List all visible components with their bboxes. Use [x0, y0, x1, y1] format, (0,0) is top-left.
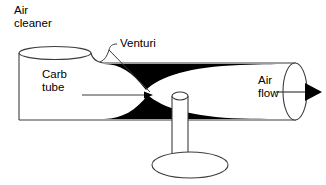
fuel-jet-stem — [172, 92, 188, 160]
label-air-flow-line2: flow — [258, 87, 278, 100]
label-carb-tube-line1: Carb — [42, 68, 67, 81]
label-carb-tube-line2: tube — [42, 81, 67, 94]
label-air-cleaner-line2: cleaner — [14, 17, 52, 30]
label-carb-tube: Carb tube — [42, 68, 67, 94]
diagram-canvas: Air cleaner Venturi Carb tube Air flow — [0, 0, 326, 185]
label-air-flow-line1: Air — [258, 74, 278, 87]
label-air-flow: Air flow — [258, 74, 278, 100]
fuel-jet-base — [152, 152, 228, 178]
air-cleaner-cylinder — [19, 47, 104, 64]
label-venturi-line1: Venturi — [120, 37, 156, 50]
label-venturi: Venturi — [120, 37, 156, 50]
carb-tube-leader-arrow — [82, 92, 153, 99]
label-air-cleaner-line1: Air — [14, 4, 52, 17]
label-air-cleaner: Air cleaner — [14, 4, 52, 30]
